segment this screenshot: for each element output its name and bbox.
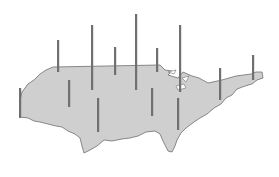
spike-mid-atlantic: [219, 68, 221, 100]
spike-great-lakes: [179, 25, 181, 92]
spike-map-canvas: [0, 0, 279, 177]
spike-map: [0, 0, 279, 177]
spike-northwest-interior: [57, 40, 59, 72]
spike-south-central: [151, 88, 153, 116]
spike-southwest: [97, 98, 99, 132]
spike-upper-midwest: [156, 48, 158, 72]
spike-northern-rockies: [91, 25, 93, 90]
us-map-outline: [20, 65, 263, 153]
spike-west-coast: [19, 88, 21, 118]
spike-northern-plains: [114, 47, 116, 75]
spike-southeast: [177, 98, 179, 130]
spike-central-plains: [135, 14, 137, 90]
spike-new-england: [252, 55, 254, 80]
spike-great-basin: [68, 80, 70, 107]
